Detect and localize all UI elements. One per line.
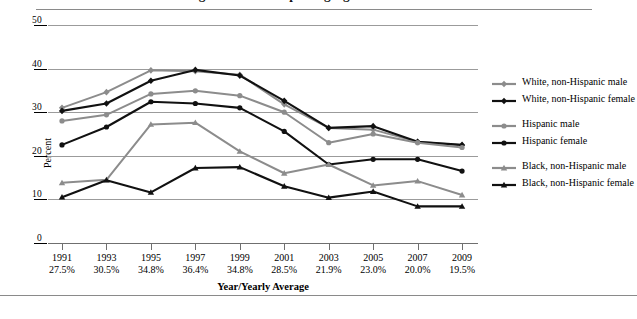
gridline-20 bbox=[48, 156, 478, 157]
data-point-marker bbox=[501, 81, 507, 88]
bottom-rule bbox=[0, 295, 637, 296]
x-tick-mark bbox=[329, 244, 330, 250]
legend-swatch-circle-icon bbox=[492, 135, 516, 147]
x-tick-label: 200919.5% bbox=[434, 252, 490, 276]
legend-label: Black, non-Hispanic male bbox=[522, 160, 626, 172]
x-tick-mark bbox=[373, 244, 374, 250]
y-tick-underline bbox=[34, 199, 47, 200]
y-tick-underline bbox=[34, 243, 47, 244]
x-tick-percent: 19.5% bbox=[434, 264, 490, 276]
x-tick-mark bbox=[418, 244, 419, 250]
x-tick-mark bbox=[151, 244, 152, 250]
data-point-marker bbox=[501, 98, 507, 105]
y-tick-underline bbox=[34, 112, 47, 113]
legend-label: Hispanic female bbox=[522, 135, 587, 147]
gridline-10 bbox=[48, 199, 478, 200]
legend-swatch-triangle-icon bbox=[492, 160, 516, 172]
y-tick-underline bbox=[34, 156, 47, 157]
legend-label: Black, non-Hispanic female bbox=[522, 177, 634, 189]
x-tick-mark bbox=[284, 244, 285, 250]
y-tick-label: 30 bbox=[20, 102, 42, 112]
chart-figure: Percentage of students reporting cigaret… bbox=[0, 0, 637, 319]
legend-swatch-triangle-icon bbox=[492, 177, 516, 189]
legend-item[interactable]: White, non-Hispanic male bbox=[492, 74, 637, 90]
legend-item[interactable]: Hispanic male bbox=[492, 116, 637, 132]
legend: White, non-Hispanic maleWhite, non-Hispa… bbox=[492, 74, 637, 192]
legend-swatch-diamond-icon bbox=[492, 93, 516, 105]
legend-label: White, non-Hispanic male bbox=[522, 76, 627, 88]
x-axis-line bbox=[48, 243, 478, 244]
series-lines bbox=[48, 18, 478, 250]
y-tick-label: 20 bbox=[20, 146, 42, 156]
data-point-marker bbox=[501, 140, 506, 145]
top-rule bbox=[36, 9, 592, 10]
x-tick-mark bbox=[106, 244, 107, 250]
figure-title-cropped: Percentage of students reporting cigaret… bbox=[0, 0, 637, 9]
y-tick-underline bbox=[34, 69, 47, 70]
legend-item[interactable]: Hispanic female bbox=[492, 133, 637, 149]
x-axis-title: Year/Yearly Average bbox=[48, 281, 478, 292]
y-tick-label: 50 bbox=[20, 15, 42, 25]
x-tick-mark bbox=[195, 244, 196, 250]
y-tick-label: 0 bbox=[20, 233, 42, 243]
figure-title-text: Percentage of students reporting cigaret… bbox=[150, 0, 403, 3]
gridline-50 bbox=[48, 25, 478, 26]
legend-item[interactable]: Black, non-Hispanic female bbox=[492, 175, 637, 191]
x-tick-mark bbox=[240, 244, 241, 250]
data-point-marker bbox=[501, 123, 506, 128]
x-tick-year: 2009 bbox=[434, 252, 490, 264]
x-tick-mark bbox=[62, 244, 63, 250]
x-tick-mark bbox=[462, 244, 463, 250]
legend-swatch-circle-icon bbox=[492, 118, 516, 130]
plot-area: Percent bbox=[48, 18, 478, 250]
legend-label: Hispanic male bbox=[522, 118, 579, 130]
gridline-30 bbox=[48, 112, 478, 113]
legend-item[interactable]: Black, non-Hispanic male bbox=[492, 158, 637, 174]
legend-swatch-diamond-icon bbox=[492, 76, 516, 88]
legend-label: White, non-Hispanic female bbox=[522, 93, 635, 105]
y-tick-label: 10 bbox=[20, 189, 42, 199]
y-tick-underline bbox=[34, 25, 47, 26]
gridline-40 bbox=[48, 69, 478, 70]
y-tick-label: 40 bbox=[20, 59, 42, 69]
legend-item[interactable]: White, non-Hispanic female bbox=[492, 91, 637, 107]
